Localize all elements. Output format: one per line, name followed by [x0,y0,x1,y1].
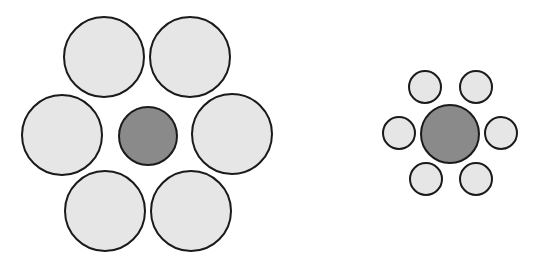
surround-circle [409,71,441,103]
surround-circle [410,163,442,195]
surround-circle [22,95,102,175]
surround-circle [151,171,231,251]
surround-circle [150,17,230,97]
ebbinghaus-figure [0,0,541,263]
small-surround-group [383,71,517,195]
surround-circle [485,117,517,149]
center-circle [119,107,177,165]
center-circle [421,105,479,163]
large-surround-group [22,17,272,251]
surround-circle [460,163,492,195]
surround-circle [383,117,415,149]
surround-circle [460,71,492,103]
surround-circle [64,17,144,97]
surround-circle [192,94,272,174]
surround-circle [65,171,145,251]
